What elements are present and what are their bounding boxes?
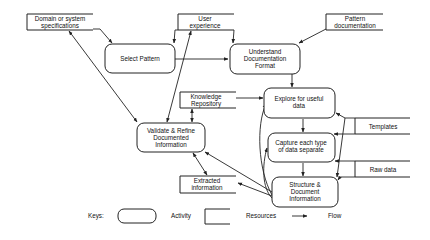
svg-text:Templates: Templates (369, 123, 398, 131)
resource-pattern-documentation: Pattern documentation (326, 14, 383, 30)
resource-raw-data: Raw data (355, 161, 410, 177)
legend: Keys: Activity Resources Flow (88, 209, 342, 224)
activity-structure-document: Structure & Document Information (272, 177, 338, 207)
resource-extracted-information: Extracted information (180, 176, 236, 193)
svg-text:Validate & Refine: Validate & Refine (147, 127, 196, 134)
svg-text:Structure &: Structure & (289, 181, 321, 188)
svg-text:Documented: Documented (153, 134, 189, 141)
resource-domain-specifications: Domain or system specifications (27, 14, 93, 30)
svg-text:Pattern: Pattern (345, 15, 366, 22)
svg-text:specifications: specifications (41, 22, 79, 30)
legend-activity-shape (118, 209, 156, 223)
resource-knowledge-repository: Knowledge Repository (180, 92, 236, 108)
svg-text:Documentation: Documentation (244, 55, 287, 62)
process-diagram: Domain or system specifications User exp… (0, 0, 430, 240)
svg-text:Information: Information (289, 195, 321, 202)
svg-text:experience: experience (190, 22, 221, 30)
svg-text:Understand: Understand (249, 48, 282, 55)
activity-label: Format (255, 62, 275, 69)
svg-text:of data separate: of data separate (278, 146, 324, 154)
svg-text:documentation: documentation (334, 22, 376, 29)
svg-text:Extracted: Extracted (194, 177, 221, 184)
resource-label: experience (190, 22, 221, 30)
resource-label: Raw data (370, 166, 397, 173)
activity-validate-refine: Validate & Refine Documented Information (137, 123, 205, 152)
resource-label: Extracted (194, 177, 221, 184)
activity-label: of data separate (278, 146, 324, 154)
legend-activity-label: Activity (171, 212, 192, 220)
legend-flow-label: Flow (328, 212, 342, 219)
activity-label: Documented (153, 134, 189, 141)
activity-understand-documentation-format: Understand Documentation Format (230, 44, 300, 74)
legend-keys-label: Keys: (88, 212, 104, 220)
legend-resources-label: Resources (246, 212, 276, 219)
resource-label: Repository (191, 100, 222, 108)
svg-text:User: User (198, 15, 211, 22)
resource-label: information (191, 184, 223, 191)
resource-label: User (198, 15, 211, 22)
svg-text:Select Pattern: Select Pattern (120, 55, 160, 62)
svg-text:Information: Information (155, 141, 187, 148)
activity-label: Document (291, 188, 320, 195)
activity-label: data (293, 102, 306, 109)
activity-label: Structure & (289, 181, 321, 188)
resource-templates: Templates (355, 118, 410, 134)
resource-label: documentation (334, 22, 376, 29)
activity-select-pattern: Select Pattern (105, 44, 175, 73)
svg-text:data: data (293, 102, 306, 109)
activity-label: Validate & Refine (147, 127, 196, 134)
svg-text:Raw data: Raw data (370, 166, 397, 173)
svg-text:Document: Document (291, 188, 320, 195)
svg-text:information: information (191, 184, 223, 191)
activity-label: Information (155, 141, 187, 148)
resource-label: Pattern (345, 15, 366, 22)
activity-explore-for-useful-data: Explore for useful data (264, 88, 335, 118)
resource-user-experience: User experience (178, 14, 234, 30)
activity-label: Information (289, 195, 321, 202)
activity-label: Documentation (244, 55, 287, 62)
resource-label: Templates (369, 123, 398, 131)
activity-label: Understand (249, 48, 282, 55)
legend-resource-shape (205, 209, 230, 224)
activity-capture-each-type: Capture each type of data separate (268, 133, 335, 162)
svg-text:Repository: Repository (191, 100, 222, 108)
activity-label: Select Pattern (120, 55, 160, 62)
svg-text:Format: Format (255, 62, 275, 69)
resource-label: specifications (41, 22, 79, 30)
